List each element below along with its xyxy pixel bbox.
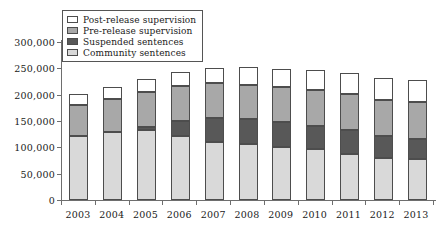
x-tick-label: 2013 — [404, 209, 429, 220]
bar-segment-community — [239, 144, 258, 200]
legend-item: Post-release supervision — [67, 14, 196, 25]
y-tick-mark — [57, 174, 61, 175]
bar-segment-prerelease — [103, 99, 122, 131]
bar-segment-community — [408, 159, 427, 200]
bar-segment-prerelease — [171, 86, 190, 121]
chart-legend: Post-release supervisionPre-release supe… — [62, 10, 203, 62]
bar-segment-suspended — [374, 136, 393, 158]
bar-segment-suspended — [340, 130, 359, 153]
legend-swatch-icon — [67, 49, 78, 56]
legend-item: Suspended sentences — [67, 36, 196, 47]
bar-segment-postrelease — [239, 67, 258, 85]
bar-segment-suspended — [272, 122, 291, 147]
x-tick-label: 2007 — [201, 209, 226, 220]
bar-segment-suspended — [137, 127, 156, 131]
bar-segment-prerelease — [69, 105, 88, 137]
x-tick-mark — [61, 201, 62, 205]
x-tick-label: 2003 — [65, 209, 90, 220]
legend-label: Suspended sentences — [83, 37, 184, 47]
y-tick-mark — [57, 95, 61, 96]
bar-segment-suspended — [171, 121, 190, 136]
bar-segment-prerelease — [239, 85, 258, 119]
y-tick-label: 250,000 — [0, 63, 55, 74]
bar-segment-postrelease — [69, 94, 88, 105]
bar-segment-postrelease — [171, 72, 190, 86]
bar-segment-prerelease — [137, 92, 156, 127]
y-tick-label: 0 — [0, 195, 55, 206]
bar-segment-postrelease — [408, 80, 427, 101]
x-tick-mark — [298, 201, 299, 205]
bar-segment-suspended — [239, 119, 258, 143]
y-tick-mark — [57, 42, 61, 43]
y-tick-label: 150,000 — [0, 116, 55, 127]
bar-segment-community — [272, 147, 291, 200]
stacked-bar-chart: 050,000100,000150,000200,000250,000300,0… — [0, 0, 438, 230]
bar-segment-postrelease — [374, 78, 393, 101]
bar-segment-prerelease — [340, 94, 359, 131]
bar-segment-community — [103, 132, 122, 200]
legend-swatch-icon — [67, 16, 78, 23]
bar-segment-postrelease — [103, 87, 122, 99]
legend-item: Pre-release supervision — [67, 25, 196, 36]
plot-area — [62, 42, 434, 200]
x-tick-label: 2009 — [268, 209, 293, 220]
x-tick-label: 2008 — [235, 209, 260, 220]
y-tick-label: 100,000 — [0, 142, 55, 153]
bar-segment-prerelease — [272, 87, 291, 122]
bar-segment-community — [340, 154, 359, 200]
y-tick-label: 300,000 — [0, 37, 55, 48]
x-tick-mark — [230, 201, 231, 205]
bar-segment-postrelease — [137, 79, 156, 92]
x-tick-mark — [129, 201, 130, 205]
y-tick-mark — [57, 121, 61, 122]
x-tick-mark — [365, 201, 366, 205]
x-tick-label: 2004 — [99, 209, 124, 220]
legend-item: Community sentences — [67, 47, 196, 58]
x-tick-label: 2005 — [133, 209, 158, 220]
bar-segment-community — [69, 136, 88, 200]
bar-segment-community — [205, 142, 224, 200]
legend-swatch-icon — [67, 27, 78, 34]
bar-segment-postrelease — [306, 70, 325, 89]
bar-segment-prerelease — [205, 83, 224, 118]
bar-segment-prerelease — [408, 102, 427, 140]
bar-segment-postrelease — [340, 73, 359, 94]
bar-segment-prerelease — [374, 100, 393, 136]
bar-segment-community — [306, 149, 325, 200]
bar-segment-suspended — [306, 126, 325, 150]
bar-segment-suspended — [205, 118, 224, 142]
legend-swatch-icon — [67, 38, 78, 45]
x-tick-mark — [162, 201, 163, 205]
x-tick-label: 2010 — [302, 209, 327, 220]
x-tick-label: 2012 — [370, 209, 395, 220]
bar-segment-postrelease — [205, 68, 224, 83]
bar-segment-community — [171, 136, 190, 200]
x-axis-ticks: 2003200420052006200720082009201020112012… — [61, 201, 436, 225]
y-tick-mark — [57, 147, 61, 148]
x-tick-label: 2006 — [167, 209, 192, 220]
bar-segment-community — [137, 130, 156, 200]
bar-segment-prerelease — [306, 90, 325, 126]
x-tick-mark — [332, 201, 333, 205]
bar-segment-community — [374, 158, 393, 200]
x-tick-mark — [433, 201, 434, 205]
bar-segment-suspended — [408, 139, 427, 159]
y-tick-label: 200,000 — [0, 89, 55, 100]
x-tick-label: 2011 — [336, 209, 361, 220]
x-tick-mark — [264, 201, 265, 205]
y-tick-mark — [57, 68, 61, 69]
x-tick-mark — [399, 201, 400, 205]
legend-label: Community sentences — [83, 48, 186, 58]
y-tick-label: 50,000 — [0, 168, 55, 179]
legend-label: Post-release supervision — [83, 15, 196, 25]
x-tick-mark — [196, 201, 197, 205]
bar-segment-postrelease — [272, 69, 291, 86]
x-tick-mark — [95, 201, 96, 205]
legend-label: Pre-release supervision — [83, 26, 193, 36]
